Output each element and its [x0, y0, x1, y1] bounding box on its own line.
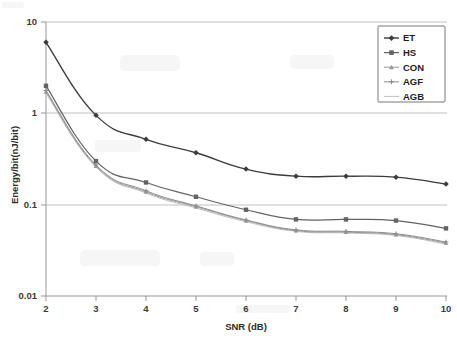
- data-point-diamond-marker: [393, 174, 399, 180]
- data-point-square-marker: [44, 84, 48, 88]
- y-axis-ticks: [41, 22, 46, 296]
- data-point-square-marker: [194, 195, 198, 199]
- data-point-diamond-marker: [293, 173, 299, 179]
- y-tick-labels: 10 1 0.1 0.01: [19, 16, 38, 301]
- legend-label: HS: [403, 47, 416, 58]
- data-point-square-marker: [294, 217, 298, 221]
- y-tick-label: 1: [32, 107, 38, 118]
- x-tick-label: 6: [243, 303, 248, 314]
- x-tick-label: 4: [143, 303, 149, 314]
- data-point-square-marker: [144, 180, 148, 184]
- chart-container: 10 1 0.1 0.01 2 3 4 5 6 7 8 9 10 SNR (dB…: [0, 0, 457, 338]
- series-hs: [44, 84, 448, 231]
- x-tick-label: 5: [193, 303, 199, 314]
- data-point-square-marker: [94, 159, 98, 163]
- x-tick-label: 9: [393, 303, 398, 314]
- y-axis-title: Energy/bit(nJ/bit): [9, 126, 20, 204]
- data-point-diamond-marker: [143, 137, 149, 143]
- y-tick-label: 0.1: [24, 199, 38, 210]
- data-point-square-marker: [344, 217, 348, 221]
- x-tick-label: 8: [343, 303, 348, 314]
- series-agf: [44, 88, 449, 244]
- legend-label: CON: [403, 62, 424, 73]
- y-tick-label: 0.01: [19, 290, 38, 301]
- data-point-square-marker: [444, 226, 448, 230]
- data-point-square-marker: [394, 218, 398, 222]
- x-tick-label: 2: [43, 303, 48, 314]
- x-tick-label: 10: [441, 303, 452, 314]
- x-axis-ticks: [46, 296, 446, 301]
- legend-label: AGB: [403, 91, 424, 102]
- legend-label: ET: [403, 32, 415, 43]
- x-tick-labels: 2 3 4 5 6 7 8 9 10: [43, 303, 451, 314]
- line-chart: 10 1 0.1 0.01 2 3 4 5 6 7 8 9 10 SNR (dB…: [0, 0, 457, 338]
- scan-artifacts: [2, 2, 334, 313]
- data-point-square-marker: [244, 208, 248, 212]
- legend: ETHSCONAGFAGB: [378, 26, 445, 102]
- x-tick-label: 3: [93, 303, 98, 314]
- data-point-diamond-marker: [443, 181, 449, 187]
- x-tick-label: 7: [293, 303, 298, 314]
- x-axis-title: SNR (dB): [225, 321, 267, 332]
- data-point-diamond-marker: [193, 150, 199, 156]
- data-point-diamond-marker: [343, 173, 349, 179]
- data-point-diamond-marker: [243, 166, 249, 172]
- y-tick-label: 10: [26, 16, 37, 27]
- legend-swatch-marker: [389, 50, 394, 55]
- legend-label: AGF: [403, 76, 423, 87]
